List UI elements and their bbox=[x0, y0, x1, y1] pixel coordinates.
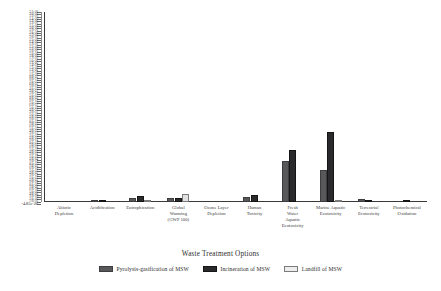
bar-pyrolysis[interactable] bbox=[358, 199, 365, 202]
bar-incineration[interactable] bbox=[403, 200, 410, 202]
chart-legend: Pyrolysis-gasification of MSW Incinerati… bbox=[0, 266, 441, 272]
bar-group bbox=[159, 12, 197, 202]
bar-groups bbox=[45, 12, 426, 202]
bar-pyrolysis[interactable] bbox=[129, 198, 136, 202]
x-category-label: PhotochemicalOxidation bbox=[382, 205, 432, 217]
bar-landfill[interactable] bbox=[182, 194, 189, 202]
legend-item-landfill[interactable]: Landfill of MSW bbox=[284, 266, 342, 272]
bar-group bbox=[45, 12, 83, 202]
y-tick-label: -4.85e-26 bbox=[22, 202, 39, 206]
bar-incineration[interactable] bbox=[137, 196, 144, 202]
legend-item-incineration[interactable]: Incineration of MSW bbox=[203, 266, 270, 272]
bar-landfill[interactable] bbox=[144, 200, 151, 202]
y-tick-labels: 3.7e-203.6e-203.5e-203.4e-203.3e-203.2e-… bbox=[0, 10, 41, 204]
legend-label-incineration: Incineration of MSW bbox=[220, 266, 270, 272]
bar-group bbox=[350, 12, 388, 202]
bar-pyrolysis[interactable] bbox=[320, 170, 327, 202]
bar-group bbox=[121, 12, 159, 202]
bar-group bbox=[83, 12, 121, 202]
legend-label-landfill: Landfill of MSW bbox=[302, 266, 342, 272]
x-category-labels: AbioticDepletionAcidificationEutrophicat… bbox=[45, 205, 426, 250]
x-axis-title: Waste Treatment Options bbox=[0, 250, 441, 258]
legend-swatch-pyrolysis bbox=[99, 266, 113, 272]
bar-pyrolysis[interactable] bbox=[282, 161, 289, 202]
bar-incineration[interactable] bbox=[251, 195, 258, 202]
bar-group bbox=[388, 12, 426, 202]
bar-incineration[interactable] bbox=[99, 200, 106, 202]
bar-group bbox=[274, 12, 312, 202]
bar-pyrolysis[interactable] bbox=[243, 197, 250, 202]
legend-swatch-landfill bbox=[284, 266, 298, 272]
bar-group bbox=[197, 12, 235, 202]
bar-incineration[interactable] bbox=[327, 132, 334, 202]
chart-root: 3.7e-203.6e-203.5e-203.4e-203.3e-203.2e-… bbox=[0, 0, 441, 291]
bar-group bbox=[236, 12, 274, 202]
bar-pyrolysis[interactable] bbox=[91, 200, 98, 202]
bar-incineration[interactable] bbox=[365, 200, 372, 202]
legend-label-pyrolysis: Pyrolysis-gasification of MSW bbox=[116, 266, 189, 272]
bar-pyrolysis[interactable] bbox=[167, 198, 174, 202]
legend-swatch-incineration bbox=[203, 266, 217, 272]
bar-landfill[interactable] bbox=[335, 200, 342, 202]
legend-item-pyrolysis[interactable]: Pyrolysis-gasification of MSW bbox=[99, 266, 189, 272]
bar-group bbox=[312, 12, 350, 202]
bar-incineration[interactable] bbox=[289, 150, 296, 202]
bar-incineration[interactable] bbox=[175, 198, 182, 202]
